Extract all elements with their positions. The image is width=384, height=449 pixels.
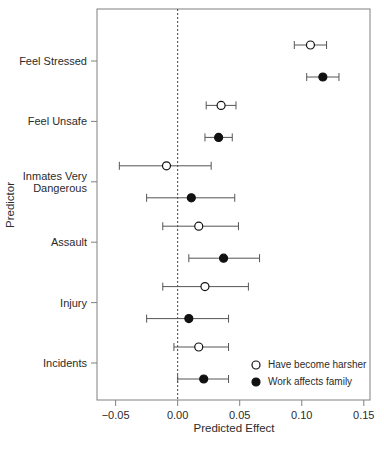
legend-filled-circle-icon: [252, 378, 260, 386]
filled-circle-marker: [185, 315, 193, 323]
filled-circle-marker: [319, 73, 327, 81]
y-axis-ticks: Feel StressedFeel UnsafeInmates VeryDang…: [19, 55, 97, 369]
x-axis-ticks: −0.050.000.050.100.15: [102, 400, 375, 421]
open-circle-marker: [217, 101, 225, 109]
open-circle-marker: [201, 283, 209, 291]
filled-circle-marker: [200, 375, 208, 383]
open-circle-marker: [306, 41, 314, 49]
filled-circle-marker: [220, 254, 228, 262]
plot-frame: [97, 9, 370, 400]
legend-label: Work affects family: [268, 376, 352, 387]
y-tick-label: Inmates Very: [23, 170, 88, 182]
x-tick-label: 0.05: [229, 409, 250, 421]
x-tick-label: −0.05: [102, 409, 130, 421]
open-circle-marker: [195, 222, 203, 230]
open-circle-marker: [162, 162, 170, 170]
legend-open-circle-icon: [252, 361, 260, 369]
forest-plot-figure: −0.050.000.050.100.15 Feel StressedFeel …: [0, 0, 384, 449]
y-axis-title: Predictor: [4, 182, 16, 228]
chart-legend: Have become harsherWork affects family: [252, 359, 367, 387]
series-2: [147, 73, 339, 383]
series-1: [119, 41, 326, 351]
open-circle-marker: [195, 343, 203, 351]
y-tick-label: Assault: [51, 236, 87, 248]
x-axis-title: Predicted Effect: [194, 422, 276, 434]
x-tick-label: 0.15: [353, 409, 374, 421]
x-tick-label: 0.00: [167, 409, 188, 421]
y-tick-label: Dangerous: [33, 182, 87, 194]
filled-circle-marker: [215, 133, 223, 141]
y-tick-label: Injury: [60, 297, 87, 309]
y-tick-label: Feel Unsafe: [28, 115, 87, 127]
filled-circle-marker: [187, 194, 195, 202]
y-tick-label: Incidents: [43, 357, 88, 369]
x-tick-label: 0.10: [291, 409, 312, 421]
legend-label: Have become harsher: [268, 359, 367, 370]
data-series-group: [119, 41, 339, 383]
plot-canvas: −0.050.000.050.100.15 Feel StressedFeel …: [0, 0, 384, 449]
y-tick-label: Feel Stressed: [19, 55, 87, 67]
